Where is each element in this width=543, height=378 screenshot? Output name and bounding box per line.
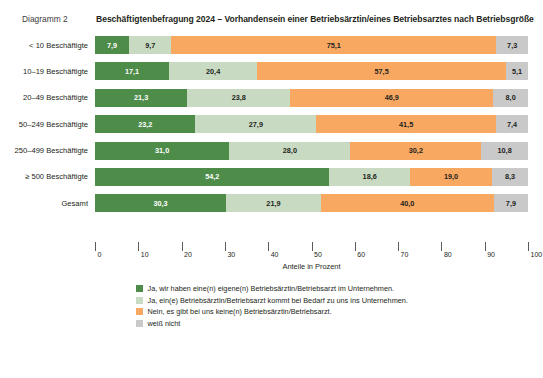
bar-segment: 18,6 bbox=[329, 168, 409, 186]
bar-row: < 10 Beschäftigte7,99,775,17,3 bbox=[0, 36, 543, 54]
bar-segment: 9,7 bbox=[129, 36, 171, 54]
axis-tick-label: 40 bbox=[271, 251, 279, 258]
bar-segment: 30,3 bbox=[95, 194, 226, 212]
bar-row: 20–49 Beschäftigte21,323,846,98,0 bbox=[0, 89, 543, 107]
bar-segment-value: 23,2 bbox=[138, 120, 152, 129]
bar-row: 50–249 Beschäftigte23,227,941,57,4 bbox=[0, 115, 543, 133]
bar-row-label: 20–49 Beschäftigte bbox=[0, 93, 95, 102]
bar-row-label: Gesamt bbox=[0, 199, 95, 208]
bar-segment: 7,9 bbox=[494, 194, 528, 212]
bar-segment-value: 7,3 bbox=[507, 41, 517, 50]
chart-legend: Ja, wir haben eine(n) eigene(n) Betriebs… bbox=[136, 283, 536, 329]
stacked-bar: 23,227,941,57,4 bbox=[95, 115, 528, 133]
bar-segment: 40,0 bbox=[321, 194, 494, 212]
bar-segment-value: 30,2 bbox=[409, 146, 423, 155]
axis-tick-label: 60 bbox=[357, 251, 365, 258]
bar-segment-value: 41,5 bbox=[399, 120, 413, 129]
bar-segment-value: 5,1 bbox=[512, 67, 522, 76]
axis-tick-mark bbox=[528, 242, 529, 251]
bar-segment: 27,9 bbox=[195, 115, 316, 133]
legend-item: Ja, ein(e) Betriebsärztin/Betriebsarzt k… bbox=[136, 295, 536, 307]
bar-segment: 23,8 bbox=[187, 89, 290, 107]
chart-figure: Diagramm 2 Beschäftigtenbefragung 2024 –… bbox=[0, 0, 543, 378]
axis-tick-mark bbox=[441, 242, 442, 251]
legend-item: Nein, es gibt bei uns keine(n) Betriebsä… bbox=[136, 306, 536, 318]
bar-segment-value: 30,3 bbox=[153, 199, 167, 208]
bar-segment: 8,0 bbox=[493, 89, 528, 107]
bar-segment: 21,9 bbox=[226, 194, 321, 212]
bar-segment: 30,2 bbox=[350, 142, 481, 160]
bar-row-label: 10–19 Beschäftigte bbox=[0, 67, 95, 76]
bar-segment: 20,4 bbox=[169, 62, 257, 80]
bar-segment-value: 57,5 bbox=[374, 67, 388, 76]
legend-swatch-icon bbox=[136, 308, 143, 315]
axis-tick-mark bbox=[138, 242, 139, 251]
stacked-bar: 21,323,846,98,0 bbox=[95, 89, 528, 107]
bar-segment-value: 8,3 bbox=[505, 172, 515, 181]
bar-segment-value: 23,8 bbox=[232, 93, 246, 102]
bar-segment: 8,3 bbox=[492, 168, 528, 186]
axis-tick-label: 70 bbox=[401, 251, 409, 258]
axis-tick-label: 30 bbox=[227, 251, 235, 258]
bar-segment: 5,1 bbox=[506, 62, 528, 80]
legend-item: Ja, wir haben eine(n) eigene(n) Betriebs… bbox=[136, 283, 536, 295]
bar-segment-value: 19,0 bbox=[444, 172, 458, 181]
axis-tick-mark bbox=[398, 242, 399, 251]
bar-segment-value: 75,1 bbox=[327, 41, 341, 50]
bar-segment-value: 27,9 bbox=[249, 120, 263, 129]
bar-segment: 10,8 bbox=[481, 142, 528, 160]
bar-segment: 57,5 bbox=[257, 62, 506, 80]
bar-segment: 7,3 bbox=[496, 36, 528, 54]
bar-segment-value: 28,0 bbox=[283, 146, 297, 155]
bar-row: 10–19 Beschäftigte17,120,457,55,1 bbox=[0, 62, 543, 80]
bar-segment-value: 7,9 bbox=[107, 41, 117, 50]
legend-swatch-icon bbox=[136, 297, 143, 304]
bar-row-label: < 10 Beschäftigte bbox=[0, 41, 95, 50]
legend-item: weiß nicht bbox=[136, 318, 536, 330]
bar-segment: 7,9 bbox=[95, 36, 129, 54]
legend-label: Ja, wir haben eine(n) eigene(n) Betriebs… bbox=[148, 283, 395, 294]
bar-segment: 21,3 bbox=[95, 89, 187, 107]
legend-swatch-icon bbox=[136, 320, 143, 327]
bar-segment: 7,4 bbox=[496, 115, 528, 133]
axis-tick-label: 80 bbox=[444, 251, 452, 258]
axis-tick-mark bbox=[225, 242, 226, 251]
bar-segment-value: 40,0 bbox=[400, 199, 414, 208]
bar-row-label: ≥ 500 Beschäftigte bbox=[0, 172, 95, 181]
axis-tick-mark bbox=[182, 242, 183, 251]
bar-segment-value: 46,9 bbox=[385, 93, 399, 102]
bar-row-label: 50–249 Beschäftigte bbox=[0, 120, 95, 129]
stacked-bar: 17,120,457,55,1 bbox=[95, 62, 528, 80]
legend-label: weiß nicht bbox=[148, 318, 181, 329]
bar-segment-value: 21,9 bbox=[266, 199, 280, 208]
bar-segment: 17,1 bbox=[95, 62, 169, 80]
stacked-bar: 54,218,619,08,3 bbox=[95, 168, 528, 186]
bar-segment-value: 31,0 bbox=[155, 146, 169, 155]
bar-segment-value: 8,0 bbox=[506, 93, 516, 102]
axis-tick-label: 50 bbox=[314, 251, 322, 258]
axis-tick-mark bbox=[355, 242, 356, 251]
axis-tick-label: 0 bbox=[98, 251, 102, 258]
legend-swatch-icon bbox=[136, 285, 143, 292]
bar-segment: 54,2 bbox=[95, 168, 329, 186]
axis-tick-label: 20 bbox=[184, 251, 192, 258]
stacked-bar: 7,99,775,17,3 bbox=[95, 36, 528, 54]
bar-segment: 23,2 bbox=[95, 115, 195, 133]
bar-segment-value: 18,6 bbox=[363, 172, 377, 181]
axis-tick-label: 90 bbox=[487, 251, 495, 258]
bar-segment-value: 20,4 bbox=[206, 67, 220, 76]
bar-row: Gesamt30,321,940,07,9 bbox=[0, 194, 543, 212]
bar-row-label: 250–499 Beschäftigte bbox=[0, 146, 95, 155]
bar-row: ≥ 500 Beschäftigte54,218,619,08,3 bbox=[0, 168, 543, 186]
chart-title: Beschäftigtenbefragung 2024 – Vorhandens… bbox=[96, 14, 534, 24]
chart-header: Diagramm 2 Beschäftigtenbefragung 2024 –… bbox=[0, 14, 543, 34]
bar-segment-value: 9,7 bbox=[145, 41, 155, 50]
bar-row: 250–499 Beschäftigte31,028,030,210,8 bbox=[0, 142, 543, 160]
axis-tick-mark bbox=[485, 242, 486, 251]
axis-tick-label: 10 bbox=[141, 251, 149, 258]
bar-segment: 31,0 bbox=[95, 142, 229, 160]
bar-segment-value: 7,4 bbox=[507, 120, 517, 129]
axis-tick-mark bbox=[95, 242, 96, 251]
stacked-bar: 31,028,030,210,8 bbox=[95, 142, 528, 160]
bar-segment: 46,9 bbox=[290, 89, 493, 107]
